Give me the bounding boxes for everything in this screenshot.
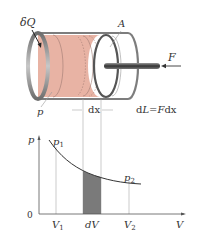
- x-axis-label: V: [176, 219, 185, 230]
- piston-diagram: δQ A F p dx dL=Fdx p 0 V p1 p2 V1 dV V2: [0, 0, 197, 244]
- v1-label: V1: [52, 219, 64, 232]
- work-label: dL=Fdx: [136, 104, 177, 115]
- force-label: F: [167, 51, 176, 64]
- area-label: A: [117, 18, 125, 29]
- pressure-label: p: [37, 106, 44, 117]
- piston-rod: [104, 63, 160, 69]
- heat-label: δQ: [20, 16, 36, 29]
- origin-label: 0: [27, 210, 33, 220]
- dv-strip: [83, 171, 101, 214]
- dv-label: dV: [85, 219, 100, 230]
- v2-label: V2: [124, 219, 136, 232]
- y-axis-label: p: [28, 134, 35, 145]
- cylinder: [28, 30, 181, 107]
- dx-label: dx: [88, 104, 100, 115]
